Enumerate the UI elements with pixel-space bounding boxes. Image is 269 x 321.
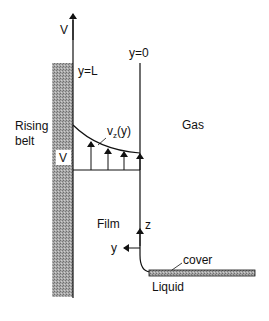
rising-belt-label-line1: Rising	[15, 119, 48, 133]
gas-label: Gas	[182, 118, 204, 132]
velocity-profile-label: vz(y)	[107, 124, 131, 140]
z-axis-label: z	[145, 218, 151, 232]
y-equals-L-label: y=L	[78, 64, 98, 78]
film-surface-line	[140, 63, 150, 272]
y-equals-0-label: y=0	[129, 46, 149, 60]
film-label: Film	[97, 217, 120, 231]
rising-belt-label-line2: belt	[15, 134, 35, 148]
liquid-cover	[149, 270, 255, 276]
y-axis-label: y	[111, 241, 117, 255]
belt-velocity-label: V	[60, 23, 68, 37]
rising-belt	[52, 63, 73, 297]
cover-leader	[172, 263, 182, 270]
belt-speed-label: V	[59, 151, 67, 165]
film-drainage-diagram: V y=L y=0 Rising belt V vz(y) Gas Film z…	[0, 0, 269, 321]
cover-label: cover	[183, 253, 212, 267]
liquid-label: Liquid	[152, 280, 184, 294]
